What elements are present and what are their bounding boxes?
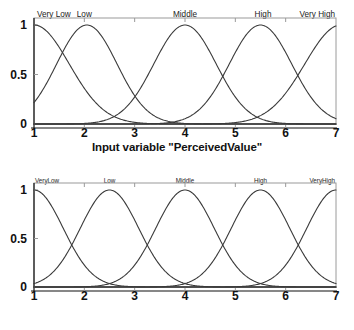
membership-curve bbox=[34, 190, 336, 287]
term-label: VeryHigh bbox=[309, 177, 335, 185]
y-axis-tick-label: 1 bbox=[20, 18, 27, 32]
x-axis-tick-label: 6 bbox=[282, 126, 289, 140]
x-axis-tick-label: 1 bbox=[31, 126, 38, 140]
membership-curves-top bbox=[34, 25, 336, 124]
tick-label-group-bottom: 10.501234567 bbox=[10, 183, 339, 303]
y-axis-tick-label: 0 bbox=[20, 280, 27, 294]
membership-curve bbox=[34, 190, 336, 287]
chart-panel-perceived-value: Very LowLowMiddleHighVery High 10.501234… bbox=[0, 0, 354, 165]
membership-curve bbox=[34, 25, 336, 124]
term-label: High bbox=[254, 177, 267, 185]
x-axis-tick-label: 3 bbox=[131, 289, 138, 303]
x-axis-tick-label: 3 bbox=[131, 126, 138, 140]
y-axis-tick-label: 0 bbox=[20, 117, 27, 131]
x-axis-tick-label: 7 bbox=[333, 126, 340, 140]
membership-curve bbox=[34, 190, 336, 287]
x-axis-tick-label: 5 bbox=[232, 289, 239, 303]
axes-frame-bottom bbox=[31, 183, 337, 291]
membership-curves-bottom bbox=[34, 190, 336, 287]
x-axis-tick-label: 4 bbox=[182, 126, 189, 140]
membership-curve bbox=[34, 25, 336, 124]
plot-area-interactivity: VeryLowLowMiddleHighVeryHigh 10.50123456… bbox=[0, 165, 354, 330]
x-axis-tick-label: 5 bbox=[232, 126, 239, 140]
axes-frame-top bbox=[31, 18, 337, 128]
x-axis-tick-label: 2 bbox=[81, 126, 88, 140]
membership-curve bbox=[34, 25, 336, 124]
y-axis-tick-label: 0.5 bbox=[10, 232, 27, 246]
x-axis-title-perceived-value: Input variable "PerceivedValue" bbox=[0, 141, 354, 153]
x-axis-tick-label: 1 bbox=[31, 289, 38, 303]
x-axis-tick-label: 7 bbox=[333, 289, 340, 303]
membership-curve bbox=[34, 25, 336, 124]
y-axis-tick-label: 0.5 bbox=[10, 68, 27, 82]
membership-curve bbox=[34, 190, 336, 287]
x-axis-tick-label: 2 bbox=[81, 289, 88, 303]
chart-panel-interactivity: VeryLowLowMiddleHighVeryHigh 10.50123456… bbox=[0, 165, 354, 330]
term-label: VeryLow bbox=[35, 177, 60, 185]
membership-curve bbox=[34, 190, 336, 287]
membership-curve bbox=[34, 26, 336, 124]
plot-svg-interactivity: VeryLowLowMiddleHighVeryHigh 10.50123456… bbox=[0, 165, 354, 330]
x-axis-tick-label: 6 bbox=[282, 289, 289, 303]
y-axis-tick-label: 1 bbox=[20, 183, 27, 197]
x-axis-tick-label: 4 bbox=[182, 289, 189, 303]
